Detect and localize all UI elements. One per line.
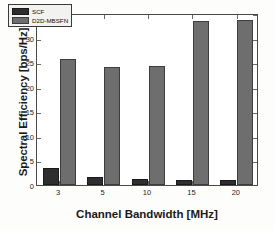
- plot-area: [36, 14, 258, 186]
- x-tick-label: 3: [43, 188, 73, 197]
- legend-item-d2d-mbsfn: D2D-MBSFN: [12, 16, 68, 24]
- y-tick-mark: [37, 40, 41, 41]
- y-tick-mark: [37, 113, 41, 114]
- bar-d2d-mbsfn-10mhz: [149, 66, 165, 185]
- x-tick-label: 20: [221, 188, 251, 197]
- y-tick-mark: [253, 15, 257, 16]
- legend-label-d2d-mbsfn: D2D-MBSFN: [32, 17, 68, 24]
- y-tick-label: 20: [10, 83, 34, 92]
- legend-label-scf: SCF: [32, 8, 44, 15]
- y-tick-mark: [37, 162, 41, 163]
- x-tick-mark: [192, 15, 193, 19]
- x-tick-mark: [104, 15, 105, 19]
- y-tick-mark: [253, 64, 257, 65]
- bar-d2d-mbsfn-20mhz: [237, 20, 253, 185]
- y-tick-label: 30: [10, 34, 34, 43]
- bar-scf-5mhz: [87, 177, 103, 185]
- spectral-efficiency-bar-chart: Spectral Efficiency [bps/Hz] Channel Ban…: [0, 0, 275, 231]
- y-tick-mark: [253, 89, 257, 90]
- y-tick-label: 25: [10, 59, 34, 68]
- legend-swatch-scf-icon: [12, 8, 29, 15]
- y-tick-mark: [253, 138, 257, 139]
- y-tick-label: 5: [10, 157, 34, 166]
- bar-d2d-mbsfn-5mhz: [104, 67, 120, 185]
- legend-item-scf: SCF: [12, 7, 68, 15]
- legend-swatch-d2d-mbsfn-icon: [12, 17, 29, 24]
- bar-d2d-mbsfn-15mhz: [193, 21, 209, 185]
- x-tick-mark: [237, 15, 238, 19]
- bar-scf-3mhz: [43, 168, 59, 185]
- bar-d2d-mbsfn-3mhz: [60, 59, 76, 185]
- chart-legend: SCF D2D-MBSFN: [8, 4, 72, 27]
- y-tick-label: 15: [10, 108, 34, 117]
- y-tick-mark: [253, 162, 257, 163]
- bar-scf-15mhz: [176, 180, 192, 185]
- y-tick-mark: [253, 40, 257, 41]
- y-tick-label: 0: [10, 182, 34, 191]
- x-tick-label: 15: [176, 188, 206, 197]
- y-tick-label: 10: [10, 132, 34, 141]
- x-tick-mark: [148, 15, 149, 19]
- y-tick-mark: [37, 89, 41, 90]
- bar-scf-20mhz: [220, 180, 236, 185]
- bar-scf-10mhz: [132, 179, 148, 185]
- y-tick-mark: [37, 138, 41, 139]
- y-tick-mark: [37, 64, 41, 65]
- x-axis-title: Channel Bandwidth [MHz]: [36, 208, 258, 220]
- y-tick-mark: [253, 113, 257, 114]
- x-tick-label: 5: [88, 188, 118, 197]
- x-tick-label: 10: [132, 188, 162, 197]
